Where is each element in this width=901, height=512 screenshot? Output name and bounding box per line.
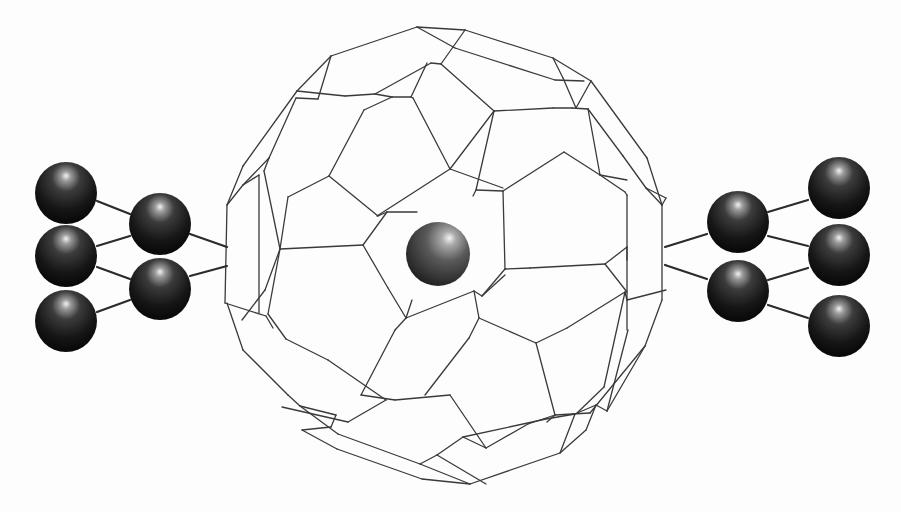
cage-edge	[361, 330, 395, 395]
cage-edge	[388, 288, 406, 318]
atom-sphere	[707, 260, 769, 322]
bond	[97, 267, 130, 279]
cage-edge	[627, 290, 666, 300]
cage-edge	[605, 264, 627, 292]
bond	[768, 305, 808, 318]
cage-edge	[363, 212, 387, 245]
atom-sphere	[129, 193, 191, 255]
cage-edge	[441, 64, 494, 111]
cage-edge	[361, 395, 395, 400]
cage-edge	[420, 455, 437, 464]
cage-edge	[302, 427, 331, 430]
cage-edge	[264, 171, 280, 249]
cage-edge	[364, 97, 392, 110]
cage-edge	[567, 292, 625, 328]
cage-edge	[646, 188, 666, 198]
molecule-svg	[0, 0, 901, 512]
left-atom-cluster	[35, 162, 191, 352]
cage-edge	[479, 318, 536, 343]
cage-edge	[265, 249, 280, 290]
cage-edge	[288, 395, 300, 406]
cage-edge	[604, 292, 625, 387]
bond	[190, 266, 227, 276]
cage-edge	[288, 176, 329, 197]
cage-edge	[375, 63, 431, 94]
cage-edge	[280, 197, 288, 249]
cage-edge	[297, 91, 345, 96]
cage-edge	[482, 275, 505, 296]
cage-edge	[269, 98, 296, 158]
cage-edge	[331, 27, 417, 56]
cage-edge	[417, 27, 465, 30]
cage-edge	[296, 98, 318, 99]
cage-edge	[348, 400, 386, 422]
cage-edge	[268, 314, 286, 339]
cage-edge	[411, 63, 427, 97]
cage-edge	[406, 291, 474, 318]
cage-edge	[482, 269, 505, 296]
fullerene-diagram	[0, 0, 901, 512]
cage-edge	[266, 316, 273, 328]
cage-edge	[395, 395, 450, 400]
cage-edge	[662, 198, 666, 205]
cage-edge	[588, 109, 600, 175]
cage-edge	[536, 328, 567, 343]
bond	[97, 201, 130, 214]
cage-edge	[563, 78, 576, 108]
bond	[97, 236, 130, 246]
cage-edge	[243, 350, 288, 395]
bond	[768, 268, 808, 280]
cage-edge	[530, 264, 605, 268]
cage-edge	[337, 449, 422, 479]
cage-edge	[503, 152, 564, 191]
cage-edge	[536, 343, 555, 415]
cage-edge	[345, 94, 375, 96]
cage-edge	[564, 152, 600, 175]
cage-edge	[607, 346, 645, 411]
atom-sphere	[808, 224, 870, 286]
cage-edge	[455, 48, 555, 80]
cage-edge	[329, 176, 378, 216]
cage-edge	[470, 453, 560, 484]
atom-sphere	[35, 162, 97, 224]
cage-edge	[395, 318, 406, 330]
cage-edge	[375, 94, 392, 97]
cage-edge	[476, 190, 503, 191]
cage-edge	[590, 346, 645, 413]
cage-edge	[328, 360, 386, 400]
cage-edge	[505, 268, 530, 269]
atom-sphere	[808, 295, 870, 357]
cage-edge	[437, 455, 486, 484]
cage-edge	[329, 110, 364, 176]
cage-edge	[465, 30, 553, 58]
bond	[665, 265, 707, 279]
cage-edge	[463, 419, 546, 437]
atom-sphere	[129, 258, 191, 320]
cage-edge	[425, 338, 469, 395]
bond	[97, 300, 130, 312]
central-atom-sphere	[406, 222, 470, 286]
cage-edge	[363, 245, 388, 288]
bond	[190, 234, 227, 247]
cage-edge	[413, 98, 450, 169]
cage-edge	[605, 247, 627, 264]
cage-edge	[227, 303, 243, 350]
cage-edge	[302, 430, 337, 449]
cage-edge	[591, 81, 647, 158]
cage-edge	[623, 156, 646, 188]
cage-edge	[474, 291, 479, 318]
atom-sphere	[808, 157, 870, 219]
atom-sphere	[35, 290, 97, 352]
cage-edge	[242, 290, 265, 320]
cage-edge	[555, 80, 584, 81]
cage-edge	[473, 190, 476, 196]
cage-edge	[227, 185, 243, 205]
cage-edge	[596, 405, 607, 411]
cage-edge	[494, 108, 553, 111]
cage-edge	[243, 158, 269, 185]
cage-edge	[431, 63, 441, 64]
cage-edge	[377, 169, 450, 216]
cage-edge	[286, 339, 328, 360]
cage-edge	[437, 437, 463, 455]
cage-edge	[225, 205, 227, 303]
